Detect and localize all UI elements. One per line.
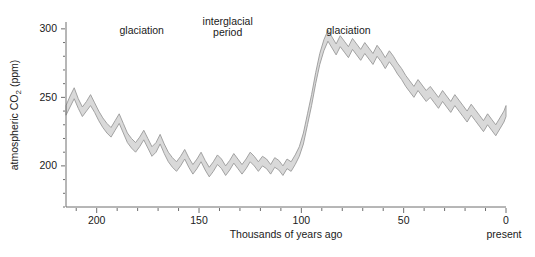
chart-axes: [66, 22, 506, 207]
co2-history-figure: 200250300 050100150200 glaciationintergl…: [0, 0, 535, 257]
annotation-glaciation-right: glaciation: [326, 24, 371, 36]
x-axis-tick-labels: 050100150200: [88, 214, 509, 226]
y-axis-title: atmospheric CO2 (ppm): [8, 60, 23, 171]
annotation-glaciation-left: glaciation: [120, 24, 165, 36]
co2-uncertainty-band: [66, 30, 506, 177]
svg-text:atmospheric CO2 (ppm): atmospheric CO2 (ppm): [8, 60, 23, 171]
x-tick-label: 0: [503, 214, 509, 226]
y-axis-tick-labels: 200250300: [39, 22, 57, 171]
x-axis-end-label: present: [486, 228, 521, 240]
y-axis-title-main: atmospheric CO: [8, 94, 20, 170]
co2-band-path: [66, 30, 506, 177]
figure-caption-strip: [0, 248, 535, 257]
y-tick-label: 250: [39, 91, 57, 103]
y-axis-title-unit: (ppm): [8, 60, 20, 90]
x-tick-label: 150: [190, 214, 208, 226]
x-axis-title: Thousands of years ago: [230, 228, 343, 240]
chart-annotations: glaciationinterglacialperiodglaciation: [120, 15, 371, 38]
y-tick-label: 200: [39, 159, 57, 171]
y-tick-label: 300: [39, 22, 57, 34]
annotation-interglacial: interglacialperiod: [203, 15, 253, 38]
y-axis-ticks: [61, 29, 65, 207]
x-tick-label: 200: [88, 214, 106, 226]
chart-canvas: 200250300 050100150200 glaciationintergl…: [0, 0, 535, 257]
x-tick-label: 100: [293, 214, 311, 226]
x-tick-label: 50: [398, 214, 410, 226]
x-axis-ticks: [76, 208, 506, 213]
